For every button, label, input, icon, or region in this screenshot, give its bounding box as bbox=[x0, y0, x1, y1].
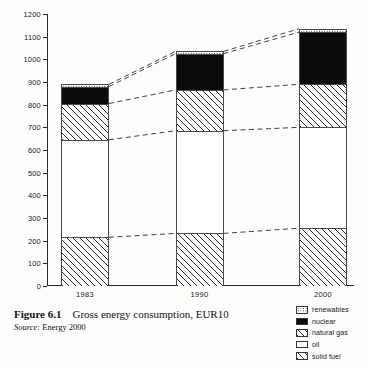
bar-1983: 1983 bbox=[61, 14, 109, 286]
caption-figure-number: Figure 6.1 bbox=[14, 308, 61, 320]
segment-renewables-1990 bbox=[176, 51, 224, 53]
figure-container: 0100200300400500600700800900100011001200… bbox=[0, 0, 372, 369]
y-tick-label: 500 bbox=[28, 168, 41, 177]
bar-1990: 1990 bbox=[176, 14, 224, 286]
y-tick-mark bbox=[43, 37, 47, 38]
y-tick-label: 1100 bbox=[24, 32, 41, 41]
caption-source-label: Source: bbox=[14, 322, 40, 332]
segment-natural-gas-1990 bbox=[176, 90, 224, 131]
segment-solid-fuel-2000 bbox=[299, 228, 347, 286]
y-tick-label: 800 bbox=[28, 100, 41, 109]
legend-swatch-renewables bbox=[296, 306, 308, 314]
segment-solid-fuel-1983 bbox=[61, 237, 109, 286]
figure-caption: Figure 6.1Gross energy consumption, EUR1… bbox=[14, 308, 229, 332]
legend-item-nuclear: nuclear bbox=[296, 316, 372, 328]
connector-nuclear-1990-to-2000 bbox=[224, 32, 300, 54]
connector-nuclear-1983-to-1990 bbox=[109, 54, 176, 87]
y-tick-mark bbox=[43, 59, 47, 60]
y-tick-mark bbox=[43, 14, 47, 15]
segment-renewables-2000 bbox=[299, 29, 347, 32]
y-tick-mark bbox=[43, 195, 47, 196]
legend-label-oil: oil bbox=[312, 341, 319, 348]
bar-2000: 2000 bbox=[299, 14, 347, 286]
y-tick-mark bbox=[43, 150, 47, 151]
segment-oil-2000 bbox=[299, 127, 347, 228]
caption-main-line: Figure 6.1Gross energy consumption, EUR1… bbox=[14, 308, 229, 320]
legend-item-oil: oil bbox=[296, 339, 372, 351]
segment-nuclear-2000 bbox=[299, 32, 347, 84]
legend-item-renewables: renewables bbox=[296, 304, 372, 316]
y-tick-label: 0 bbox=[37, 282, 41, 291]
chart-legend: renewablesnuclearnatural gasoilsolid fue… bbox=[296, 304, 372, 362]
y-tick-label: 100 bbox=[28, 259, 41, 268]
legend-item-natural-gas: natural gas bbox=[296, 327, 372, 339]
y-tick-label: 200 bbox=[28, 236, 41, 245]
y-tick-mark bbox=[43, 105, 47, 106]
legend-swatch-oil bbox=[296, 341, 308, 349]
segment-nuclear-1983 bbox=[61, 87, 109, 104]
legend-item-solid-fuel: solid fuel bbox=[296, 350, 372, 362]
connector-solid-fuel-1990-to-2000 bbox=[224, 228, 300, 233]
y-tick-label: 300 bbox=[28, 214, 41, 223]
legend-swatch-solid-fuel bbox=[296, 352, 308, 360]
caption-source-line: Source: Energy 2000 bbox=[14, 322, 229, 332]
connector-natural-gas-1983-to-1990 bbox=[109, 90, 176, 104]
segment-solid-fuel-1990 bbox=[176, 233, 224, 286]
connector-renewables-1983-to-1990 bbox=[109, 51, 176, 84]
connector-oil-1983-to-1990 bbox=[109, 131, 176, 140]
y-tick-mark bbox=[43, 173, 47, 174]
connector-solid-fuel-1983-to-1990 bbox=[109, 233, 176, 237]
segment-natural-gas-1983 bbox=[61, 104, 109, 140]
segment-nuclear-1990 bbox=[176, 54, 224, 90]
caption-title: Gross energy consumption, EUR10 bbox=[72, 308, 228, 320]
x-tick-label-1983: 1983 bbox=[76, 290, 94, 299]
y-tick-mark bbox=[43, 286, 47, 287]
connector-oil-1990-to-2000 bbox=[224, 127, 300, 130]
segment-oil-1983 bbox=[61, 140, 109, 237]
legend-label-natural-gas: natural gas bbox=[312, 329, 348, 336]
y-tick-mark bbox=[43, 218, 47, 219]
segment-oil-1990 bbox=[176, 131, 224, 234]
legend-swatch-natural-gas bbox=[296, 329, 308, 337]
y-tick-label: 900 bbox=[28, 78, 41, 87]
y-tick-label: 1200 bbox=[24, 10, 42, 19]
x-tick-label-1990: 1990 bbox=[191, 290, 209, 299]
caption-source-value: Energy 2000 bbox=[42, 322, 86, 332]
y-tick-mark bbox=[43, 82, 47, 83]
y-tick-mark bbox=[43, 241, 47, 242]
legend-label-solid-fuel: solid fuel bbox=[312, 353, 341, 360]
legend-swatch-nuclear bbox=[296, 318, 308, 326]
legend-label-nuclear: nuclear bbox=[312, 318, 336, 325]
legend-label-renewables: renewables bbox=[312, 306, 349, 313]
chart-plot-area: 0100200300400500600700800900100011001200… bbox=[47, 14, 354, 286]
y-tick-mark bbox=[43, 263, 47, 264]
y-axis-line bbox=[47, 14, 48, 286]
y-tick-mark bbox=[43, 127, 47, 128]
y-tick-label: 700 bbox=[28, 123, 41, 132]
connector-natural-gas-1990-to-2000 bbox=[224, 84, 300, 90]
segment-natural-gas-2000 bbox=[299, 84, 347, 127]
x-tick-label-2000: 2000 bbox=[314, 290, 332, 299]
y-tick-label: 1000 bbox=[24, 55, 42, 64]
segment-renewables-1983 bbox=[61, 84, 109, 86]
y-tick-label: 400 bbox=[28, 191, 41, 200]
y-tick-label: 600 bbox=[28, 146, 41, 155]
connector-renewables-1990-to-2000 bbox=[224, 29, 300, 52]
